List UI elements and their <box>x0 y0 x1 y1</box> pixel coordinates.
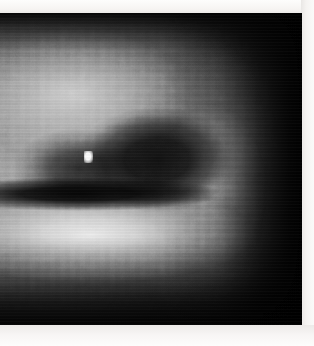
region-dark-pocket <box>0 13 302 325</box>
region-dark-core <box>0 13 302 325</box>
bright-speck-marker <box>84 151 93 163</box>
region-right-arc-outer <box>0 13 302 325</box>
region-right-arc <box>0 13 302 325</box>
image-viewport <box>0 0 314 346</box>
margin-right <box>301 0 314 346</box>
margin-bottom <box>0 325 314 346</box>
margin-top <box>0 0 314 13</box>
softening-overlay <box>0 13 302 325</box>
region-bright-upper-lobe <box>0 13 302 325</box>
scanline-texture <box>0 13 302 325</box>
falloff-top <box>0 13 302 325</box>
falloff-right <box>0 13 302 325</box>
falloff-bottom <box>0 13 302 325</box>
region-bright-lower-crescent <box>0 13 302 325</box>
region-dark-band <box>0 13 302 325</box>
grain-noise-texture <box>0 13 302 325</box>
region-bright-body <box>0 13 302 325</box>
scan-image-frame <box>0 13 302 325</box>
block-noise-texture <box>0 13 302 325</box>
